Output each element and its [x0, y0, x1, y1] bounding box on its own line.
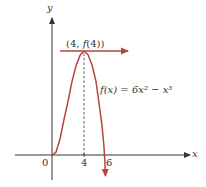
tick-label-4: 4	[81, 157, 87, 168]
function-curve	[52, 51, 106, 176]
max-point-label: (4, f(4))	[66, 38, 104, 49]
formula-rest: (x) = 6x² − x³	[104, 84, 173, 95]
tick-label-6: 6	[106, 157, 112, 168]
x-axis-label: x	[192, 148, 198, 159]
y-axis-label: y	[47, 2, 53, 13]
max-point-prefix: (4,	[66, 38, 83, 49]
origin-label: 0	[42, 157, 48, 168]
max-point-suffix: (4))	[86, 38, 104, 49]
function-formula-label: f(x) = 6x² − x³	[100, 84, 172, 95]
